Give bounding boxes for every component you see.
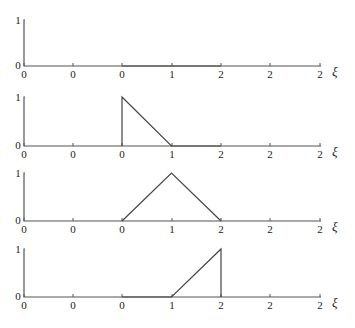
x-tick-label: 0	[21, 68, 27, 80]
x-tick-label: 1	[169, 223, 175, 235]
x-axis-label: ξ	[332, 295, 338, 310]
x-axis-label: ξ	[332, 64, 338, 79]
y-tick-label-top: 1	[15, 243, 21, 255]
x-tick-label: 0	[119, 148, 125, 160]
x-tick-label: 2	[218, 68, 224, 80]
x-axis-label: ξ	[332, 144, 338, 159]
axes	[24, 173, 321, 221]
x-tick-label: 0	[119, 68, 125, 80]
x-tick-label: 2	[267, 299, 273, 311]
basis-function-chart: 000122210ξ000122210ξ000122210ξ000122210ξ	[0, 0, 355, 328]
series-line	[122, 173, 221, 221]
x-tick-label: 0	[119, 223, 125, 235]
x-tick-label: 2	[267, 68, 273, 80]
x-tick-label: 0	[70, 148, 76, 160]
y-tick-label-top: 1	[15, 91, 21, 103]
panel-4: 000122210ξ	[15, 243, 338, 311]
series-line	[122, 97, 221, 146]
panel-3: 000122210ξ	[15, 167, 338, 235]
y-tick-label-bottom: 0	[15, 214, 21, 226]
x-tick-label: 0	[119, 299, 125, 311]
x-tick-label: 0	[70, 299, 76, 311]
y-tick-label-bottom: 0	[15, 139, 21, 151]
x-tick-label: 0	[21, 299, 27, 311]
x-tick-label: 2	[218, 223, 224, 235]
axes	[24, 249, 321, 297]
axes	[24, 97, 321, 146]
x-axis-label: ξ	[332, 219, 338, 234]
y-tick-label-top: 1	[15, 167, 21, 179]
x-tick-label: 2	[267, 223, 273, 235]
axes	[24, 20, 321, 66]
x-tick-label: 2	[317, 68, 323, 80]
x-tick-label: 1	[169, 148, 175, 160]
y-tick-label-bottom: 0	[15, 59, 21, 71]
series-line	[122, 249, 221, 297]
y-tick-label-top: 1	[15, 14, 21, 26]
x-tick-label: 0	[21, 223, 27, 235]
x-tick-label: 2	[317, 299, 323, 311]
x-tick-label: 1	[169, 68, 175, 80]
x-tick-label: 2	[218, 299, 224, 311]
x-tick-label: 2	[267, 148, 273, 160]
x-tick-label: 2	[317, 223, 323, 235]
panel-1: 000122210ξ	[15, 14, 338, 80]
x-tick-label: 0	[70, 223, 76, 235]
x-tick-label: 0	[70, 68, 76, 80]
x-tick-label: 2	[317, 148, 323, 160]
y-tick-label-bottom: 0	[15, 290, 21, 302]
x-tick-label: 0	[21, 148, 27, 160]
x-tick-label: 2	[218, 148, 224, 160]
panel-2: 000122210ξ	[15, 91, 338, 160]
x-tick-label: 1	[169, 299, 175, 311]
